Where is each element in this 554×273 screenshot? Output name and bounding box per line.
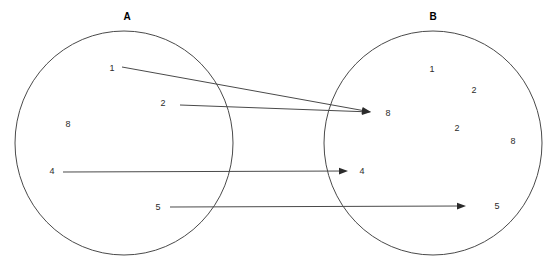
arrow-1-to-8-line — [122, 67, 362, 110]
diagram-canvas — [0, 0, 554, 273]
set-a-member-1: 2 — [160, 99, 165, 108]
set-circles-group — [15, 31, 542, 255]
venn-mapping-diagram: A12845B1282845 — [0, 0, 554, 273]
arrow-5-to-5-line — [170, 206, 457, 207]
set-b-member-5: 4 — [359, 167, 364, 176]
set-b-member-6: 5 — [494, 202, 499, 211]
mapping-arrows-group — [63, 67, 466, 209]
arrow-5-to-5-arrowhead — [457, 203, 466, 210]
set-a-member-2: 8 — [65, 120, 70, 129]
set-b-member-1: 2 — [471, 86, 476, 95]
set-b-member-4: 8 — [510, 137, 515, 146]
arrow-4-to-4-arrowhead — [339, 168, 348, 175]
set-a-member-4: 5 — [155, 203, 160, 212]
set-a-member-0: 1 — [109, 64, 114, 73]
set-a-member-3: 4 — [49, 167, 54, 176]
set-a-title: A — [123, 12, 130, 22]
set-a-circle — [15, 31, 233, 255]
set-b-title: B — [429, 12, 436, 22]
arrow-2-to-8-line — [180, 105, 362, 112]
set-b-member-3: 2 — [454, 124, 459, 133]
set-b-member-0: 1 — [429, 65, 434, 74]
arrow-4-to-4-line — [63, 171, 339, 172]
set-b-member-2: 8 — [385, 109, 390, 118]
